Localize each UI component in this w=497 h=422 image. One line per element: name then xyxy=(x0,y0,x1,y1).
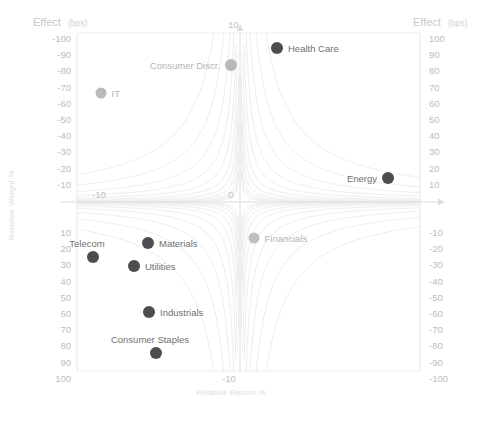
right-tick-label: -30 xyxy=(429,259,443,270)
left-tick-label: -100 xyxy=(52,33,71,44)
data-point-label: Utilities xyxy=(145,261,176,272)
right-axis-tick-labels: 100908070605040302010-10-20-30-40-50-60-… xyxy=(429,33,448,384)
data-point-marker[interactable] xyxy=(96,88,107,99)
right-tick-label: -20 xyxy=(429,243,443,254)
right-tick-label: 50 xyxy=(429,114,440,125)
right-tick-label: -100 xyxy=(429,373,448,384)
data-point-industrials[interactable]: Industrials xyxy=(143,306,204,318)
x-tick-label-center: 0 xyxy=(228,189,233,200)
y-tick-label-top: 10 xyxy=(228,19,239,30)
data-point-financials[interactable]: Financials xyxy=(249,233,308,244)
data-point-label: Health Care xyxy=(288,43,339,54)
x-tick-label-left: -10 xyxy=(92,189,106,200)
left-tick-label: 30 xyxy=(60,259,71,270)
horizontal-axis-arrow-icon xyxy=(438,199,445,206)
data-point-marker[interactable] xyxy=(142,237,154,249)
left-tick-label: 10 xyxy=(60,227,71,238)
data-point-label: Telecom xyxy=(69,238,104,249)
data-point-health-care[interactable]: Health Care xyxy=(271,42,339,54)
data-point-marker[interactable] xyxy=(249,233,260,244)
data-point-marker[interactable] xyxy=(128,260,140,272)
data-point-label: Consumer Staples xyxy=(111,334,189,345)
data-point-consumer-discr[interactable]: Consumer Discr. xyxy=(150,59,237,71)
right-tick-label: 40 xyxy=(429,130,440,141)
data-point-marker[interactable] xyxy=(382,172,394,184)
right-tick-label: 90 xyxy=(429,49,440,60)
right-tick-label: 100 xyxy=(429,33,445,44)
right-tick-label: 10 xyxy=(429,179,440,190)
data-point-telecom[interactable]: Telecom xyxy=(69,238,104,263)
data-point-label: Materials xyxy=(159,238,198,249)
left-tick-label: -60 xyxy=(57,98,71,109)
left-axis-tick-labels: -100-90-80-70-60-50-40-30-20-10102030405… xyxy=(52,33,71,384)
data-point-energy[interactable]: Energy xyxy=(347,172,394,184)
y-axis-name: Relative Weight % xyxy=(7,170,16,240)
right-tick-label: 70 xyxy=(429,82,440,93)
left-tick-label: -80 xyxy=(57,65,71,76)
x-axis-ticks xyxy=(77,200,420,204)
data-point-label: Energy xyxy=(347,173,377,184)
left-tick-label: -70 xyxy=(57,82,71,93)
x-tick-label-right: -10 xyxy=(222,373,236,384)
data-point-label: Financials xyxy=(265,233,308,244)
data-point-label: Industrials xyxy=(160,307,204,318)
right-axis-title-units: (bps) xyxy=(448,18,468,28)
left-axis-title-units: (bps) xyxy=(68,18,88,28)
right-tick-label: 60 xyxy=(429,98,440,109)
left-tick-label: -90 xyxy=(57,49,71,60)
data-point-consumer-staples[interactable]: Consumer Staples xyxy=(111,334,189,359)
right-tick-label: -70 xyxy=(429,324,443,335)
right-axis-title: Effect xyxy=(413,16,441,28)
scatter-plot-svg: -100-90-80-70-60-50-40-30-20-10102030405… xyxy=(0,0,497,422)
data-point-marker[interactable] xyxy=(87,251,99,263)
data-point-utilities[interactable]: Utilities xyxy=(128,260,176,272)
chart-canvas: -100-90-80-70-60-50-40-30-20-10102030405… xyxy=(0,0,497,422)
data-point-label: Consumer Discr. xyxy=(150,60,220,71)
left-tick-label: 60 xyxy=(60,308,71,319)
left-tick-label: -10 xyxy=(57,179,71,190)
right-tick-label: 80 xyxy=(429,65,440,76)
data-point-marker[interactable] xyxy=(225,59,237,71)
data-point-marker[interactable] xyxy=(150,347,162,359)
right-tick-label: -10 xyxy=(429,227,443,238)
left-tick-label: 40 xyxy=(60,276,71,287)
right-tick-label: -90 xyxy=(429,357,443,368)
right-tick-label: 30 xyxy=(429,146,440,157)
left-tick-label: -40 xyxy=(57,130,71,141)
left-tick-label: -50 xyxy=(57,114,71,125)
right-tick-label: -50 xyxy=(429,292,443,303)
left-tick-label: 100 xyxy=(55,373,71,384)
data-point-it[interactable]: IT xyxy=(96,88,121,99)
left-tick-label: 80 xyxy=(60,340,71,351)
data-point-label: IT xyxy=(112,88,121,99)
left-tick-label: -30 xyxy=(57,146,71,157)
data-point-materials[interactable]: Materials xyxy=(142,237,198,249)
right-tick-label: -80 xyxy=(429,340,443,351)
data-point-marker[interactable] xyxy=(271,42,283,54)
x-axis-name: Relative Return % xyxy=(196,388,266,397)
left-tick-label: 90 xyxy=(60,357,71,368)
right-tick-label: -60 xyxy=(429,308,443,319)
left-tick-label: 50 xyxy=(60,292,71,303)
left-tick-label: 70 xyxy=(60,324,71,335)
data-point-marker[interactable] xyxy=(143,306,155,318)
left-tick-label: -20 xyxy=(57,163,71,174)
right-tick-label: 20 xyxy=(429,163,440,174)
right-tick-label: -40 xyxy=(429,276,443,287)
left-axis-title: Effect xyxy=(33,16,61,28)
